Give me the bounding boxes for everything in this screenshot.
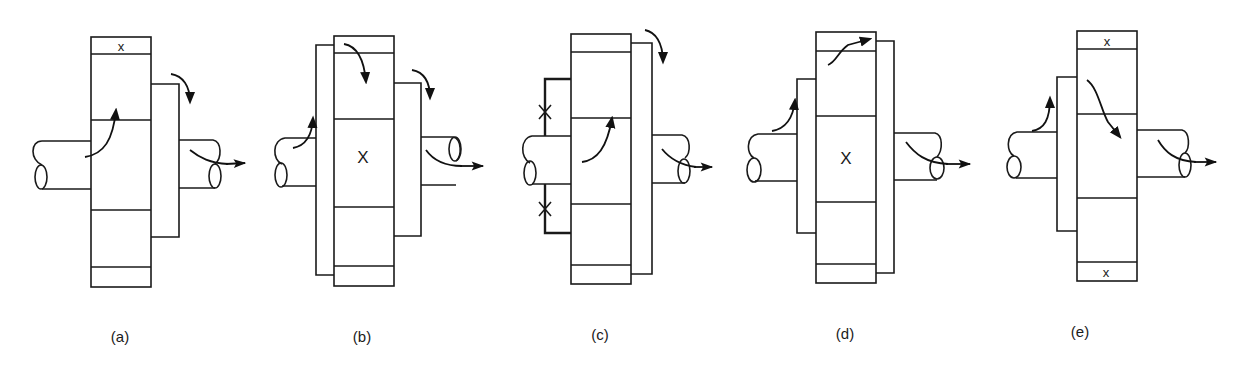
flow-arrow (85, 110, 116, 157)
output-shaft (652, 135, 690, 183)
panel-b: X (275, 36, 483, 286)
main-gear (571, 34, 631, 284)
panel-label-d: (d) (836, 325, 854, 342)
panel-label-a: (a) (111, 328, 129, 345)
flow-arrow (171, 74, 190, 102)
panel-d: X (747, 32, 970, 283)
panel-c (523, 30, 712, 284)
panel-e: x x (1007, 31, 1216, 281)
main-gear (91, 37, 151, 287)
panel-a: x (33, 37, 245, 287)
side-plate (1057, 77, 1077, 231)
flow-arrow (582, 118, 612, 162)
side-plate (394, 83, 421, 236)
flow-arrow (426, 150, 462, 166)
diagram-canvas: x X (0, 0, 1237, 366)
brake-bracket (539, 79, 571, 233)
input-shaft (275, 138, 316, 187)
fixed-mark: x (1103, 265, 1110, 280)
side-plate (797, 79, 816, 233)
output-shaft (1137, 130, 1191, 177)
flow-arrow (772, 100, 795, 131)
input-shaft (33, 141, 91, 189)
flow-arrow (1032, 98, 1050, 131)
main-gear (1077, 31, 1137, 281)
side-plate (631, 43, 652, 274)
output-shaft (894, 133, 944, 180)
flow-arrow (190, 150, 228, 164)
output-arrow (226, 163, 245, 164)
flow-arrow (293, 118, 313, 148)
input-shaft (1007, 132, 1057, 178)
panel-label-e: (e) (1071, 323, 1089, 340)
panel-label-c: (c) (591, 326, 609, 343)
panel-label-b: (b) (353, 328, 371, 345)
output-shaft (179, 140, 221, 188)
flow-arrow (828, 39, 870, 65)
side-plate (151, 84, 179, 237)
flow-arrow (645, 30, 663, 62)
fixed-mark: x (118, 39, 125, 54)
side-plate (316, 45, 334, 275)
output-shaft (421, 137, 461, 185)
fixed-mark: x (1104, 34, 1111, 49)
flow-arrow (1087, 80, 1120, 137)
input-shaft (747, 134, 797, 182)
flow-arrow (344, 44, 366, 82)
fixed-mark: X (840, 149, 851, 168)
side-plate (876, 41, 894, 273)
input-shaft (523, 136, 571, 185)
fixed-mark: X (357, 148, 368, 167)
